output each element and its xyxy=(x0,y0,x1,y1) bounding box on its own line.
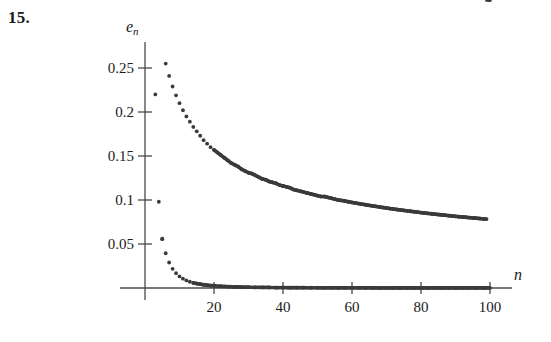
y-tick-label-2: 0.15 xyxy=(62,148,134,165)
series-lower-error-sequence xyxy=(160,237,492,290)
data-point xyxy=(188,120,192,124)
data-point xyxy=(171,267,175,271)
data-point xyxy=(202,138,206,142)
x-tick-label-4: 100 xyxy=(479,299,502,316)
data-point xyxy=(191,125,195,129)
data-point xyxy=(185,115,189,119)
data-point xyxy=(205,142,209,146)
data-point xyxy=(181,108,185,112)
data-point xyxy=(178,274,182,278)
x-axis-label: n xyxy=(514,266,522,284)
y-tick-label-0: 0.05 xyxy=(62,236,134,253)
x-tick-label-3: 80 xyxy=(414,299,429,316)
data-point xyxy=(487,286,491,290)
data-point xyxy=(181,277,185,281)
data-series-group xyxy=(153,0,491,290)
data-point xyxy=(171,85,175,89)
data-point xyxy=(164,62,168,66)
y-axis-label-subscript: n xyxy=(133,25,139,37)
data-point xyxy=(157,200,161,204)
data-point xyxy=(160,237,164,241)
data-point xyxy=(174,271,178,275)
data-point xyxy=(164,251,168,255)
data-point xyxy=(167,74,171,78)
scatter-plot: en n 0.050.10.150.20.25 20406080100 xyxy=(0,0,551,342)
y-tick-label-3: 0.2 xyxy=(62,104,134,121)
data-point xyxy=(153,93,157,97)
data-point xyxy=(188,280,192,284)
data-point xyxy=(185,279,189,283)
data-point xyxy=(209,145,213,149)
x-tick-label-1: 40 xyxy=(276,299,291,316)
data-point xyxy=(198,134,202,138)
data-point xyxy=(178,101,182,105)
data-point xyxy=(195,129,199,133)
y-tick-label-1: 0.1 xyxy=(62,192,134,209)
x-tick-label-0: 20 xyxy=(207,299,222,316)
data-point xyxy=(167,261,171,265)
y-axis-label: en xyxy=(126,18,139,37)
plot-canvas xyxy=(0,0,551,342)
data-point xyxy=(174,93,178,97)
y-tick-label-4: 0.25 xyxy=(62,60,134,77)
x-tick-label-2: 60 xyxy=(345,299,360,316)
data-point xyxy=(484,217,488,221)
figure-container: 15. en n 0.050.10.150.20.25 20406080100 xyxy=(0,0,551,342)
series-upper-error-sequence xyxy=(153,0,491,241)
axes-group xyxy=(120,42,512,300)
